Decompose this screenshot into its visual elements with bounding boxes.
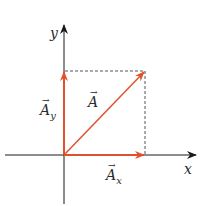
diagram-canvas xyxy=(0,0,207,206)
vector-arrow-icon: → xyxy=(108,161,116,170)
vector-a-x-label: → Ax xyxy=(106,168,122,182)
vector-a-label: → A xyxy=(88,95,98,109)
vector-a-y-label: → Ay xyxy=(40,103,56,117)
vector-diagram: y x → A → Ay → Ax xyxy=(0,0,207,206)
vector-a xyxy=(64,72,144,155)
vector-arrow-icon: → xyxy=(90,88,98,97)
vector-arrow-icon: → xyxy=(42,96,50,105)
y-axis-label: y xyxy=(50,26,58,40)
x-axis-label: x xyxy=(184,162,192,176)
